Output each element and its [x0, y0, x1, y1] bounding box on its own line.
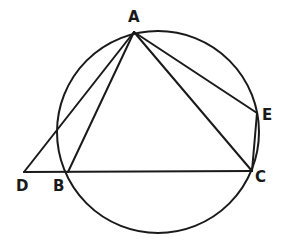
point-label-e: E — [262, 108, 272, 123]
point-label-b: B — [53, 179, 64, 194]
point-label-a: A — [128, 10, 140, 25]
geometry-figure — [0, 0, 286, 249]
point-label-c: C — [255, 170, 266, 185]
point-label-d: D — [16, 179, 28, 194]
segment-ac — [134, 32, 252, 171]
segment-dc — [24, 171, 252, 172]
